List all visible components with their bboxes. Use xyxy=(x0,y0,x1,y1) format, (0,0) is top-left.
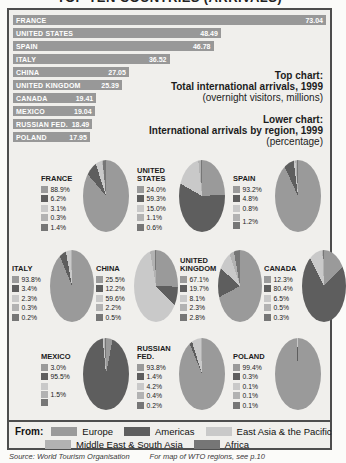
legend-entry: 95.5% xyxy=(41,373,83,380)
bar-france: FRANCE73.04 xyxy=(13,15,326,25)
east-asia-the-pacific-swatch xyxy=(233,383,240,390)
bar-country-label: ITALY xyxy=(16,56,36,63)
legend-entry-value: 12.2% xyxy=(106,285,125,292)
europe-swatch xyxy=(96,276,103,283)
legend-entry: 19.7% xyxy=(180,285,218,292)
pie-legend-spain: SPAIN93.2%4.8%0.8%1.2% xyxy=(233,158,275,232)
pie-block-russian-fed: RUSSIAN FED.93.8%1.4%4.2%0.4%0.2% xyxy=(137,336,225,410)
east-asia-the-pacific-swatch xyxy=(137,205,144,212)
swatch-column xyxy=(180,295,187,302)
top-chart-annotation: Top chart: Total international arrivals,… xyxy=(171,70,323,103)
swatch-column xyxy=(180,314,187,321)
swatch-column xyxy=(137,195,144,202)
bar-united-kingdom: UNITED KINGDOM25.39 xyxy=(13,80,122,90)
swatch-column xyxy=(233,364,240,371)
legend-entry: 3.0% xyxy=(41,364,83,371)
americas-swatch xyxy=(264,285,271,292)
legend-entry: 12.2% xyxy=(96,285,134,292)
east-asia-the-pacific-swatch xyxy=(206,427,232,436)
swatch-column xyxy=(137,373,144,380)
legend-entry-value: 15.0% xyxy=(147,205,166,212)
bar-country-label: SPAIN xyxy=(16,43,38,50)
swatch-column xyxy=(41,383,48,406)
bar-country-label: UNITED KINGDOM xyxy=(16,82,81,89)
africa-swatch xyxy=(194,440,220,449)
pie-title: ITALY xyxy=(12,256,50,273)
east-asia-the-pacific-swatch xyxy=(41,205,48,212)
swatch-column xyxy=(96,314,103,321)
swatch-column xyxy=(96,276,103,283)
pie-block-italy: ITALY93.8%3.4%2.3%0.3%0.2% xyxy=(12,248,94,322)
bar-row: ITALY36.52 xyxy=(13,54,326,67)
africa-swatch xyxy=(233,222,240,229)
legend-entry-value: 0.4% xyxy=(147,392,163,399)
legend-entry-value: 1.4% xyxy=(51,224,67,231)
middle-east-south-asia-swatch xyxy=(180,304,187,311)
legend-entry: 6.5% xyxy=(264,295,302,302)
africa-swatch xyxy=(12,314,19,321)
legend-entry-value: 67.1% xyxy=(190,276,209,283)
legend-entry: 4.8% xyxy=(233,195,275,202)
pie-title: MEXICO xyxy=(41,344,83,361)
legend-entry-value: 0.1% xyxy=(243,392,259,399)
legend-entry-value: 6.5% xyxy=(274,295,290,302)
region-name: Africa xyxy=(225,439,249,450)
pie-canada xyxy=(302,250,346,322)
europe-swatch xyxy=(233,364,240,371)
swatch-column xyxy=(137,214,144,221)
legend-entry: 4.2% xyxy=(137,383,179,390)
legend-entry: 1.4% xyxy=(137,373,179,380)
bar-row: UNITED STATES48.49 xyxy=(13,28,326,41)
americas-swatch xyxy=(180,285,187,292)
swatch-column xyxy=(137,364,144,371)
legend-entry: 88.9% xyxy=(41,186,83,193)
middle-east-south-asia-swatch xyxy=(45,440,71,449)
middle-east-south-asia-swatch xyxy=(137,214,144,221)
pie-italy xyxy=(50,250,94,322)
legend-entry: 67.1% xyxy=(180,276,218,283)
bar-china: CHINA27.05 xyxy=(13,67,129,77)
east-asia-the-pacific-swatch xyxy=(96,295,103,302)
from-item-middle-east-south-asia: Middle East & South Asia xyxy=(45,439,183,450)
swatch-column xyxy=(12,285,19,292)
swatch-column xyxy=(264,304,271,311)
legend-entry-value: 4.2% xyxy=(147,383,163,390)
middle-east-south-asia-swatch xyxy=(96,304,103,311)
legend-entry-value: 0.1% xyxy=(243,402,259,409)
swatch-column xyxy=(233,205,240,212)
legend-entry-value: 3.4% xyxy=(22,285,38,292)
swatch-column xyxy=(264,314,271,321)
legend-entry-value: 0.3% xyxy=(51,214,67,221)
legend-entry-value: 4.8% xyxy=(243,195,259,202)
americas-swatch xyxy=(233,195,240,202)
swatch-column xyxy=(264,295,271,302)
swatch-column xyxy=(41,205,48,212)
swatch-column xyxy=(96,285,103,292)
pie-title: UNITED STATES xyxy=(137,166,179,183)
swatch-column xyxy=(137,186,144,193)
legend-entry-value: 0.8% xyxy=(243,205,259,212)
region-name: Middle East & South Asia xyxy=(76,439,183,450)
pie-row-2: ITALY93.8%3.4%2.3%0.3%0.2%CHINA25.5%12.2… xyxy=(9,248,330,322)
middle-east-south-asia-swatch xyxy=(233,214,240,221)
swatch-column xyxy=(96,295,103,302)
legend-entry-value: 80.4% xyxy=(274,285,293,292)
lower-chart-annotation-unit: (percentage) xyxy=(149,136,323,147)
americas-swatch xyxy=(124,427,150,436)
east-asia-the-pacific-swatch xyxy=(180,295,187,302)
pie-row-1: FRANCE88.9%6.2%3.1%0.3%1.4%UNITED STATES… xyxy=(9,158,330,232)
legend-entry: 0.1% xyxy=(233,383,275,390)
swatch-column xyxy=(12,304,19,311)
legend-entry-value: 3.0% xyxy=(51,364,67,371)
from-row-1: From: EuropeAmericasEast Asia & the Paci… xyxy=(15,425,324,437)
swatch-column xyxy=(233,373,240,380)
swatch-column xyxy=(12,276,19,283)
bar-mexico: MEXICO19.04 xyxy=(13,106,95,116)
pie-title: POLAND xyxy=(233,344,275,361)
legend-entry-value: 59.3% xyxy=(147,195,166,202)
legend-entry-value: 0.2% xyxy=(22,314,38,321)
legend-entry-value: 1.1% xyxy=(147,214,163,221)
from-item-europe: Europe xyxy=(51,426,113,437)
pie-spain xyxy=(275,160,321,232)
page-title: TOP TEN COUNTRIES (ARRIVALS) xyxy=(0,0,339,5)
